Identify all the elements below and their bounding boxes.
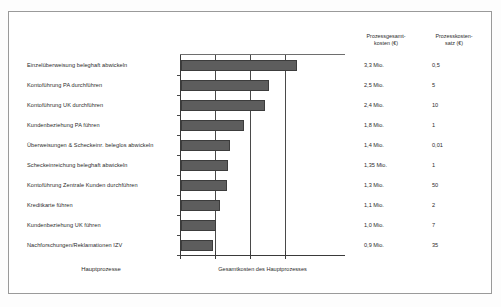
column-header-total-line1: Prozessgesamt-	[367, 33, 406, 39]
bar	[181, 160, 228, 171]
process-label: Einzelüberweisung beleghaft abwickeln	[27, 60, 175, 71]
bar	[181, 60, 297, 71]
process-label: Nachforschungen/Reklamationen IZV	[27, 240, 175, 251]
bar	[181, 140, 230, 151]
y-axis-tick-1	[177, 95, 180, 96]
chart-page: Einzelüberweisung beleghaft abwickelnKon…	[0, 0, 501, 307]
x-axis-tick-3	[285, 251, 286, 259]
cell-prozessgesamtkosten: 2,4 Mio.	[364, 100, 414, 111]
column-header-rate-line1: Prozesskosten-	[435, 33, 472, 39]
cell-prozessgesamtkosten: 1,1 Mio.	[364, 200, 414, 211]
cell-prozessgesamtkosten: 1,3 Mio.	[364, 180, 414, 191]
cell-prozesskostensatz: 50	[432, 180, 482, 191]
column-header-rate-line2: satz (€)	[445, 40, 463, 46]
cell-prozesskostensatz: 10	[432, 100, 482, 111]
x-axis-caption: Gesamtkosten des Hauptprozesses	[180, 266, 345, 272]
column-header-prozesskostensatz: Prozesskosten- satz (€)	[423, 33, 485, 48]
cell-prozesskostensatz: 35	[432, 240, 482, 251]
y-axis-tick-7	[177, 215, 180, 216]
bar	[181, 200, 220, 211]
cell-prozesskostensatz: 7	[432, 220, 482, 231]
cell-prozesskostensatz: 2	[432, 200, 482, 211]
cell-prozessgesamtkosten: 1,35 Mio.	[364, 160, 414, 171]
cell-prozesskostensatz: 1	[432, 160, 482, 171]
process-label-column: Einzelüberweisung beleghaft abwickelnKon…	[27, 55, 175, 255]
bar	[181, 180, 227, 191]
bar	[181, 240, 213, 251]
bar	[181, 220, 216, 231]
process-label: Kontoführung Zentrale Kunden durchführen	[27, 180, 175, 191]
y-axis-tick-9	[177, 255, 180, 256]
y-axis-tick-0	[177, 75, 180, 76]
x-axis-line	[180, 255, 313, 256]
bar	[181, 120, 244, 131]
process-label: Kreditkarte führen	[27, 200, 175, 211]
cell-prozesskostensatz: 5	[432, 80, 482, 91]
process-label: Scheckeinreichung beleghaft abwickeln	[27, 160, 175, 171]
y-axis-tick-8	[177, 235, 180, 236]
x-axis-tick-1	[215, 251, 216, 259]
cell-prozessgesamtkosten: 3,3 Mio.	[364, 60, 414, 71]
cell-prozesskostensatz: 0,5	[432, 60, 482, 71]
cell-prozessgesamtkosten: 0,9 Mio.	[364, 240, 414, 251]
y-axis-tick-5	[177, 175, 180, 176]
x-axis-tick-2	[250, 251, 251, 259]
process-label: Kundenbeziehung UK führen	[27, 220, 175, 231]
cell-prozesskostensatz: 0,01	[432, 140, 482, 151]
y-axis-tick-3	[177, 135, 180, 136]
bar	[181, 80, 269, 91]
process-label: Kundenbeziehung PA führen	[27, 120, 175, 131]
y-axis-tick-6	[177, 195, 180, 196]
bar-chart-plot	[180, 55, 313, 255]
cell-prozesskostensatz: 1	[432, 120, 482, 131]
process-label: Kontoführung PA durchführen	[27, 80, 175, 91]
process-label: Kontoführung UK durchführen	[27, 100, 175, 111]
cell-prozessgesamtkosten: 1,0 Mio.	[364, 220, 414, 231]
gridline-x-3	[285, 55, 286, 255]
column-header-prozessgesamtkosten: Prozessgesamt- kosten (€)	[355, 33, 417, 48]
y-axis-tick-2	[177, 115, 180, 116]
cell-prozessgesamtkosten: 2,5 Mio.	[364, 80, 414, 91]
y-axis-tick-4	[177, 155, 180, 156]
column-header-total-line2: kosten (€)	[374, 40, 398, 46]
y-axis-caption: Hauptprozesse	[27, 266, 175, 272]
x-axis-extension-line	[313, 255, 345, 256]
cell-prozessgesamtkosten: 1,8 Mio.	[364, 120, 414, 131]
plot-top-rule	[180, 54, 345, 55]
process-label: Überweisungen & Scheckeinr. beleglos abw…	[27, 140, 175, 151]
cell-prozessgesamtkosten: 1,4 Mio.	[364, 140, 414, 151]
x-axis-tick-0	[180, 251, 181, 259]
bar	[181, 100, 265, 111]
